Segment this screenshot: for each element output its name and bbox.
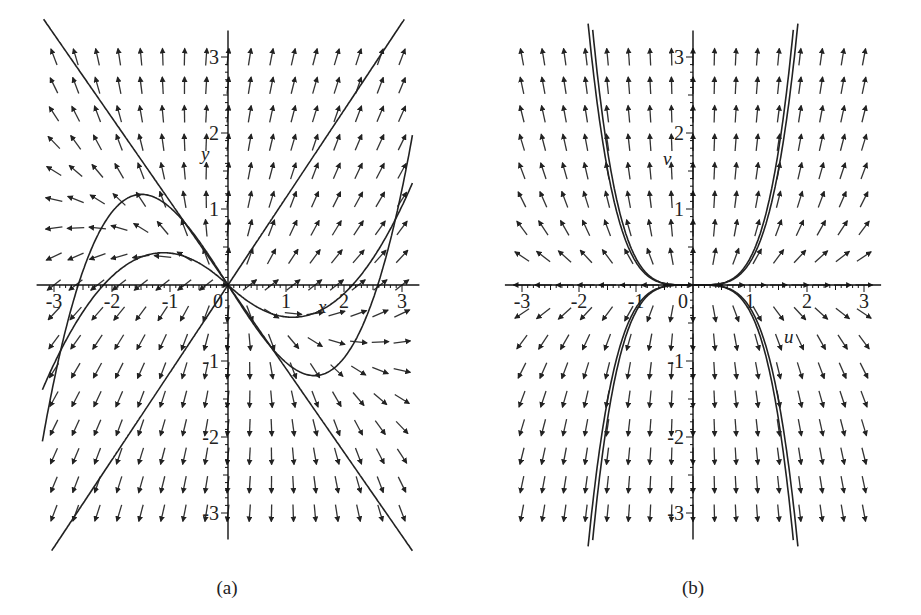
field-arrow — [51, 505, 57, 521]
field-arrow — [605, 220, 611, 236]
field-arrow — [372, 310, 388, 317]
field-arrow — [139, 448, 144, 464]
field-arrow — [537, 251, 551, 261]
y-tick-label: -2 — [667, 426, 684, 448]
field-arrow — [602, 250, 612, 264]
field-arrow — [796, 334, 803, 349]
field-arrow — [183, 419, 187, 436]
field-arrow — [862, 106, 866, 122]
field-arrow — [735, 106, 736, 123]
field-arrow — [333, 163, 340, 179]
field-arrow — [184, 134, 185, 151]
field-arrow — [627, 220, 632, 236]
field-arrow — [249, 476, 250, 493]
x-tick-label: 0 — [213, 290, 223, 312]
y-tick-label: -2 — [202, 426, 219, 448]
field-arrow — [291, 77, 295, 94]
field-arrow — [714, 163, 715, 180]
field-arrow — [377, 135, 384, 150]
field-arrow — [139, 505, 143, 521]
field-arrow — [137, 335, 145, 350]
y-tick-label: -3 — [202, 502, 219, 524]
field-arrow — [818, 192, 824, 208]
field-arrow — [563, 419, 567, 436]
field-arrow — [818, 363, 824, 379]
field-arrow — [372, 342, 389, 343]
field-arrow — [115, 164, 124, 179]
field-arrow — [841, 49, 844, 66]
field-arrow — [537, 308, 551, 318]
field-arrow — [585, 77, 587, 94]
field-arrow — [49, 335, 59, 349]
field-arrow — [314, 476, 316, 493]
field-arrow — [157, 221, 168, 234]
field-arrow — [271, 419, 272, 436]
field-arrow — [249, 419, 250, 436]
field-arrow — [628, 419, 630, 436]
field-arrow — [541, 134, 545, 150]
field-arrow — [649, 334, 652, 351]
field-arrow — [116, 391, 123, 407]
field-arrow — [71, 136, 81, 150]
field-arrow — [820, 77, 823, 94]
field-arrow — [115, 363, 123, 378]
field-arrow — [520, 49, 523, 66]
field-arrow — [584, 191, 589, 207]
direction-field-plot-a: -3-2-10123321-1-2-3xy — [0, 0, 460, 575]
field-arrow — [735, 134, 736, 151]
field-arrow — [735, 191, 737, 208]
field-arrow — [180, 306, 188, 321]
field-arrow — [860, 192, 868, 207]
field-arrow — [376, 163, 384, 178]
field-arrow — [798, 391, 802, 408]
field-arrow — [184, 163, 186, 180]
field-arrow — [134, 224, 148, 233]
y-tick-label: 2 — [674, 122, 684, 144]
field-arrow — [541, 163, 546, 179]
field-arrow — [714, 134, 715, 151]
field-arrow — [335, 448, 339, 464]
field-arrow — [519, 391, 525, 407]
field-arrow — [841, 448, 845, 465]
field-arrow — [733, 249, 739, 265]
field-arrow — [647, 249, 653, 265]
field-arrow — [248, 49, 251, 66]
field-arrow — [51, 448, 58, 464]
field-arrow — [627, 362, 630, 379]
field-arrow — [539, 221, 548, 235]
y-tick-label: 3 — [209, 46, 219, 68]
field-arrow — [73, 477, 79, 493]
x-tick-label: -1 — [162, 290, 179, 312]
field-arrow — [735, 505, 736, 522]
field-arrow — [756, 134, 758, 151]
field-arrow — [269, 191, 274, 207]
field-arrow — [734, 334, 737, 351]
field-arrow — [735, 391, 737, 408]
field-arrow — [714, 391, 715, 408]
field-arrow — [398, 477, 405, 492]
field-arrow — [334, 420, 340, 436]
field-arrow — [819, 163, 824, 179]
field-arrow — [115, 335, 124, 350]
y-axis-label: v — [663, 148, 672, 169]
field-arrow — [520, 77, 524, 94]
field-arrow — [205, 476, 208, 493]
field-arrow — [820, 448, 823, 465]
field-arrow — [205, 220, 207, 237]
field-arrow — [519, 163, 525, 179]
field-arrow — [95, 77, 100, 93]
field-arrow — [205, 448, 208, 465]
field-arrow — [714, 191, 715, 208]
field-arrow — [161, 163, 165, 180]
field-arrow — [270, 106, 274, 123]
field-arrow — [140, 106, 143, 123]
field-arrow — [713, 248, 716, 265]
field-arrow — [585, 505, 587, 522]
field-arrow — [331, 250, 342, 263]
field-arrow — [116, 420, 122, 436]
field-arrow — [671, 391, 672, 408]
field-arrow — [399, 505, 405, 521]
field-arrow — [859, 221, 869, 235]
field-arrow — [735, 362, 737, 379]
direction-field-plot-b: -3-2-10123321-1-2-3uv — [460, 0, 921, 575]
